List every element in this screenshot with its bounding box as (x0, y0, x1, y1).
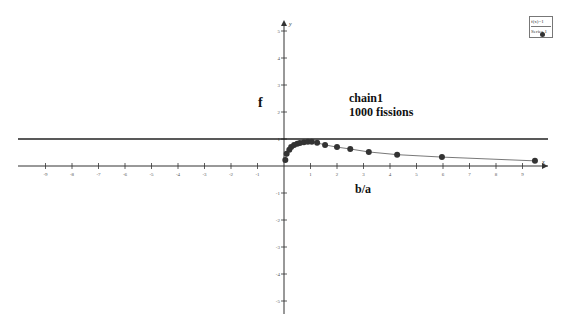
y-tick-label: 4 (278, 56, 281, 61)
y-axis-label: f (258, 95, 263, 111)
x-axis-name: x (541, 159, 545, 165)
chart-title-line-1: chain1 (349, 91, 413, 105)
x-tick-label: -6 (123, 172, 128, 177)
x-tick-label: 7 (468, 172, 471, 177)
data-point (314, 140, 320, 146)
data-point (334, 144, 340, 150)
legend: f(x)=1 Series 1 (529, 16, 553, 38)
y-tick-label: 3 (278, 83, 281, 88)
data-point (309, 139, 315, 145)
y-axis-arrow-icon (281, 20, 287, 26)
chart-plot: xy-9-8-7-6-5-4-3-2-1123456789-5-4-3-2-11… (0, 0, 566, 330)
legend-item-reference: f(x)=1 (531, 18, 551, 25)
x-tick-label: 3 (362, 172, 365, 177)
y-tick-label: -4 (276, 272, 281, 277)
x-axis-label: b/a (355, 182, 371, 197)
x-tick-label: -4 (176, 172, 181, 177)
chart-title: chain1 1000 fissions (349, 91, 413, 119)
y-tick-label: 2 (278, 110, 281, 115)
y-tick-label: -3 (276, 245, 281, 250)
data-point (532, 158, 538, 164)
legend-divider (531, 26, 551, 27)
x-tick-label: -3 (202, 172, 207, 177)
data-point (366, 149, 372, 155)
x-tick-label: 5 (415, 172, 418, 177)
data-point (282, 157, 288, 163)
y-axis-name: y (288, 21, 292, 27)
legend-marker-icon (540, 32, 545, 37)
x-tick-label: -5 (149, 172, 154, 177)
y-tick-label: -5 (276, 299, 281, 304)
y-tick-label: 5 (278, 29, 281, 34)
y-tick-label: -1 (276, 191, 281, 196)
x-tick-label: -2 (229, 172, 234, 177)
data-point (439, 154, 445, 160)
data-point (394, 152, 400, 158)
x-tick-label: -8 (70, 172, 75, 177)
x-tick-label: 2 (336, 172, 339, 177)
data-point (347, 146, 353, 152)
x-tick-label: 6 (442, 172, 445, 177)
data-point (322, 142, 328, 148)
x-tick-label: 8 (495, 172, 498, 177)
y-tick-label: -2 (276, 218, 281, 223)
x-tick-label: 1 (309, 172, 312, 177)
x-tick-label: -7 (96, 172, 101, 177)
x-tick-label: 4 (389, 172, 392, 177)
x-tick-label: -9 (43, 172, 48, 177)
x-tick-label: -1 (255, 172, 260, 177)
chart-title-line-2: 1000 fissions (349, 105, 413, 119)
x-tick-label: 9 (521, 172, 524, 177)
